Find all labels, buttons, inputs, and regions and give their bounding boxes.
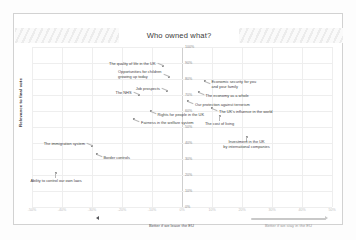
x-tick-label: 50% — [328, 208, 335, 212]
y-tick-label: 40% — [185, 141, 192, 145]
data-point-label: Border controls — [104, 155, 130, 160]
data-point-label: The quality of life in the UK — [109, 61, 156, 66]
gridline-horizontal — [32, 127, 332, 128]
x-tick-label: 30% — [268, 208, 275, 212]
leave-arrow-bar — [104, 218, 239, 220]
data-point-label: The economy as a whole — [206, 92, 249, 97]
data-point-label: Job prospects — [136, 86, 160, 91]
gridline-horizontal — [32, 47, 332, 48]
x-tick-label: 40% — [298, 208, 305, 212]
label-leader-line — [188, 101, 194, 104]
stay-arrow-bar — [251, 218, 326, 220]
leave-arrow-head — [96, 216, 99, 220]
x-tick-label: -40% — [58, 208, 66, 212]
slide-canvas: Who owned what? Relevance to final vote … — [0, 0, 356, 240]
gridline-horizontal — [32, 191, 332, 192]
scatter-plot: 100%90%80%70%60%50%40%30%20%10%0%The qua… — [32, 47, 332, 207]
x-tick-label: -20% — [118, 208, 126, 212]
y-tick-label: 50% — [185, 125, 192, 129]
gridline-horizontal — [32, 175, 332, 176]
y-tick-label: 30% — [185, 157, 192, 161]
data-point-label: Rights for people in the UK — [158, 112, 205, 117]
direction-arrows: Better if we leave the EU Better if we s… — [32, 217, 332, 233]
y-tick-label: 70% — [185, 93, 192, 97]
data-point-label: Opportunities for childrengrowing up tod… — [118, 69, 161, 79]
data-point-label: Investment in the UKby international com… — [223, 139, 269, 149]
y-tick-label: 100% — [185, 45, 194, 49]
label-leader-line — [162, 88, 168, 91]
x-tick-label: 0% — [179, 208, 184, 212]
data-point-label: Our protection against terrorism — [195, 102, 250, 107]
data-point-label: Economic security for youand your family — [212, 79, 257, 89]
x-tick-label: -10% — [148, 208, 156, 212]
y-tick-label: 80% — [185, 77, 192, 81]
x-axis-ticks: -50%-40%-30%-20%-10%0%10%20%30%40%50% — [32, 208, 332, 216]
gridline-horizontal — [32, 79, 332, 80]
label-leader-line — [163, 74, 169, 77]
data-point-label: The NHS — [116, 90, 132, 95]
data-point-label: Ability to control our own laws — [30, 178, 81, 183]
x-tick-label: 20% — [238, 208, 245, 212]
label-leader-line — [134, 119, 140, 122]
x-tick-label: -50% — [28, 208, 36, 212]
data-point-label: Fairness in the welfare system — [141, 120, 194, 125]
y-tick-label: 20% — [185, 173, 192, 177]
stay-arrow-head — [325, 216, 328, 220]
label-leader-line — [96, 154, 102, 157]
stay-arrow-label: Better if we stay in the EU — [265, 223, 312, 228]
x-tick-label: -30% — [88, 208, 96, 212]
gridline-horizontal — [32, 159, 332, 160]
x-tick-label: 10% — [208, 208, 215, 212]
label-leader-line — [204, 81, 210, 84]
data-point-label: The cost of living — [205, 120, 234, 125]
data-point-label: The UK's influence in the world — [219, 108, 273, 113]
gridline-vertical — [332, 47, 333, 207]
page-title: Who owned what? — [15, 28, 343, 43]
data-point-label: The immigration system — [44, 141, 85, 146]
y-axis-title: Relevance to final vote — [18, 78, 23, 127]
gridline-horizontal — [32, 95, 332, 96]
gridline-horizontal — [32, 63, 332, 64]
title-band: Who owned what? — [15, 28, 343, 43]
y-tick-label: 10% — [185, 189, 192, 193]
leave-arrow-label: Better if we leave the EU — [149, 223, 194, 228]
slide-frame: Who owned what? Relevance to final vote … — [13, 13, 343, 225]
label-leader-line — [157, 63, 163, 66]
y-tick-label: 90% — [185, 61, 192, 65]
